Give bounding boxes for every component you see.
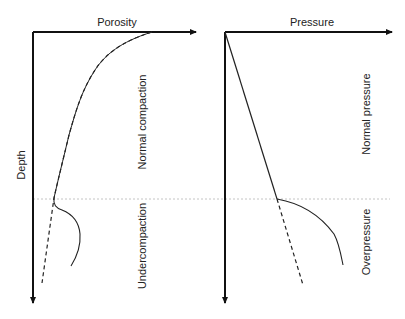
- pressure-panel: Pressure Normal pressure Overpressure: [225, 16, 392, 303]
- porosity-axis-label: Porosity: [97, 16, 137, 28]
- compaction-pressure-diagram: Porosity Depth Normal compaction Underco…: [0, 0, 405, 319]
- hydrostatic-pressure-line: [225, 32, 277, 199]
- normal-compaction-label: Normal compaction: [136, 75, 148, 170]
- overpressure-curve: [277, 199, 343, 265]
- depth-axis-label: Depth: [15, 150, 27, 179]
- overpressure-label: Overpressure: [360, 209, 372, 276]
- normal-pressure-label: Normal pressure: [360, 73, 372, 154]
- porosity-panel: Porosity Depth Normal compaction Underco…: [15, 16, 196, 303]
- undercompaction-label: Undercompaction: [136, 203, 148, 289]
- hydrostatic-trend-dashed: [277, 199, 303, 285]
- porosity-curve-undercompaction: [54, 198, 80, 266]
- pressure-axis-label: Pressure: [290, 16, 334, 28]
